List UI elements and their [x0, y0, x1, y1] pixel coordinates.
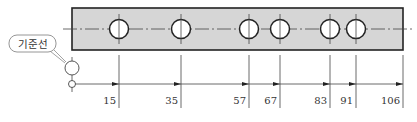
dim-label-35: 35	[165, 95, 178, 106]
origin-circle-small	[69, 81, 76, 88]
dim-label-83: 83	[314, 95, 327, 106]
datum-callout: 기준선	[9, 35, 66, 63]
datum-circle-large	[65, 61, 79, 75]
callout-leader	[50, 50, 66, 63]
datum-symbol	[65, 57, 79, 92]
dim-label-106: 106	[381, 95, 400, 106]
extension-lines	[119, 55, 403, 108]
dim-label-91: 91	[340, 95, 353, 106]
callout-label: 기준선	[18, 38, 48, 50]
dimension-labels: 15 35 57 67 83 91 106	[103, 95, 400, 106]
dim-label-57: 57	[233, 95, 246, 106]
dim-label-67: 67	[264, 95, 277, 106]
engineering-drawing: 15 35 57 67 83 91 106 기준선	[0, 0, 417, 122]
dim-label-15: 15	[103, 95, 116, 106]
